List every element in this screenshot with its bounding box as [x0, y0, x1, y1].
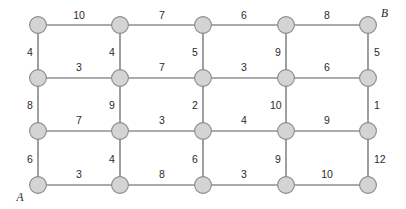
edge-weight-label-horizontal-1: 7 — [159, 9, 165, 21]
edge-weight-label-horizontal-0: 10 — [73, 9, 85, 21]
edge-weight-label-horizontal-6: 3 — [241, 61, 247, 73]
graph-node-n41[interactable] — [360, 70, 377, 87]
graph-node-n02[interactable] — [30, 123, 47, 140]
terminal-label-a: A — [15, 191, 24, 203]
edge-weight-label-vertical-0: 4 — [27, 46, 33, 58]
graph-node-n22[interactable] — [195, 123, 212, 140]
graph-node-n32[interactable] — [278, 123, 295, 140]
weighted-grid-graph-figure: 10768373673493831048649452691095112 AB — [0, 0, 406, 209]
edge-weight-label-horizontal-5: 7 — [159, 61, 165, 73]
edges-layer — [38, 25, 368, 185]
edge-weight-label-vertical-14: 12 — [374, 153, 386, 165]
graph-node-n33[interactable] — [278, 177, 295, 194]
graph-canvas: 10768373673493831048649452691095112 AB — [0, 0, 406, 209]
edge-weight-label-horizontal-9: 3 — [159, 114, 165, 126]
edge-weight-label-horizontal-2: 6 — [241, 9, 247, 21]
edge-weight-label-horizontal-14: 3 — [241, 168, 247, 180]
graph-node-n23[interactable] — [195, 177, 212, 194]
edge-weight-label-horizontal-11: 9 — [324, 114, 330, 126]
graph-node-n03[interactable] — [30, 177, 47, 194]
edge-weight-labels-layer: 10768373673493831048649452691095112 — [27, 9, 386, 180]
edge-weight-label-vertical-2: 6 — [27, 153, 33, 165]
edge-weight-label-horizontal-15: 10 — [321, 168, 333, 180]
graph-node-n13[interactable] — [112, 177, 129, 194]
graph-node-n01[interactable] — [30, 70, 47, 87]
edge-weight-label-vertical-1: 8 — [27, 99, 33, 111]
graph-node-n30[interactable] — [278, 17, 295, 34]
edge-weight-label-vertical-6: 5 — [192, 46, 198, 58]
edge-weight-label-horizontal-4: 3 — [76, 61, 82, 73]
edge-weight-label-vertical-5: 4 — [109, 153, 115, 165]
graph-node-n00[interactable] — [30, 17, 47, 34]
graph-node-n31[interactable] — [278, 70, 295, 87]
graph-node-n40[interactable] — [360, 17, 377, 34]
terminal-label-b: B — [381, 7, 388, 19]
edge-weight-label-vertical-9: 9 — [275, 46, 281, 58]
edge-weight-label-horizontal-8: 7 — [76, 114, 82, 126]
edge-weight-label-vertical-4: 9 — [109, 99, 115, 111]
edge-weight-label-vertical-10: 10 — [270, 99, 282, 111]
graph-node-n20[interactable] — [195, 17, 212, 34]
edge-weight-label-horizontal-10: 4 — [241, 114, 247, 126]
graph-node-n10[interactable] — [112, 17, 129, 34]
edge-weight-label-horizontal-7: 6 — [324, 61, 330, 73]
graph-node-n43[interactable] — [360, 177, 377, 194]
edge-weight-label-vertical-12: 5 — [374, 46, 380, 58]
graph-node-n42[interactable] — [360, 123, 377, 140]
edge-weight-label-horizontal-12: 3 — [76, 168, 82, 180]
edge-weight-label-vertical-7: 2 — [192, 99, 198, 111]
graph-node-n12[interactable] — [112, 123, 129, 140]
edge-weight-label-horizontal-13: 8 — [159, 168, 165, 180]
graph-node-n21[interactable] — [195, 70, 212, 87]
edge-weight-label-horizontal-3: 8 — [324, 9, 330, 21]
edge-weight-label-vertical-13: 1 — [374, 99, 380, 111]
edge-weight-label-vertical-8: 6 — [192, 153, 198, 165]
edge-weight-label-vertical-11: 9 — [275, 153, 281, 165]
graph-node-n11[interactable] — [112, 70, 129, 87]
edge-weight-label-vertical-3: 4 — [109, 46, 115, 58]
